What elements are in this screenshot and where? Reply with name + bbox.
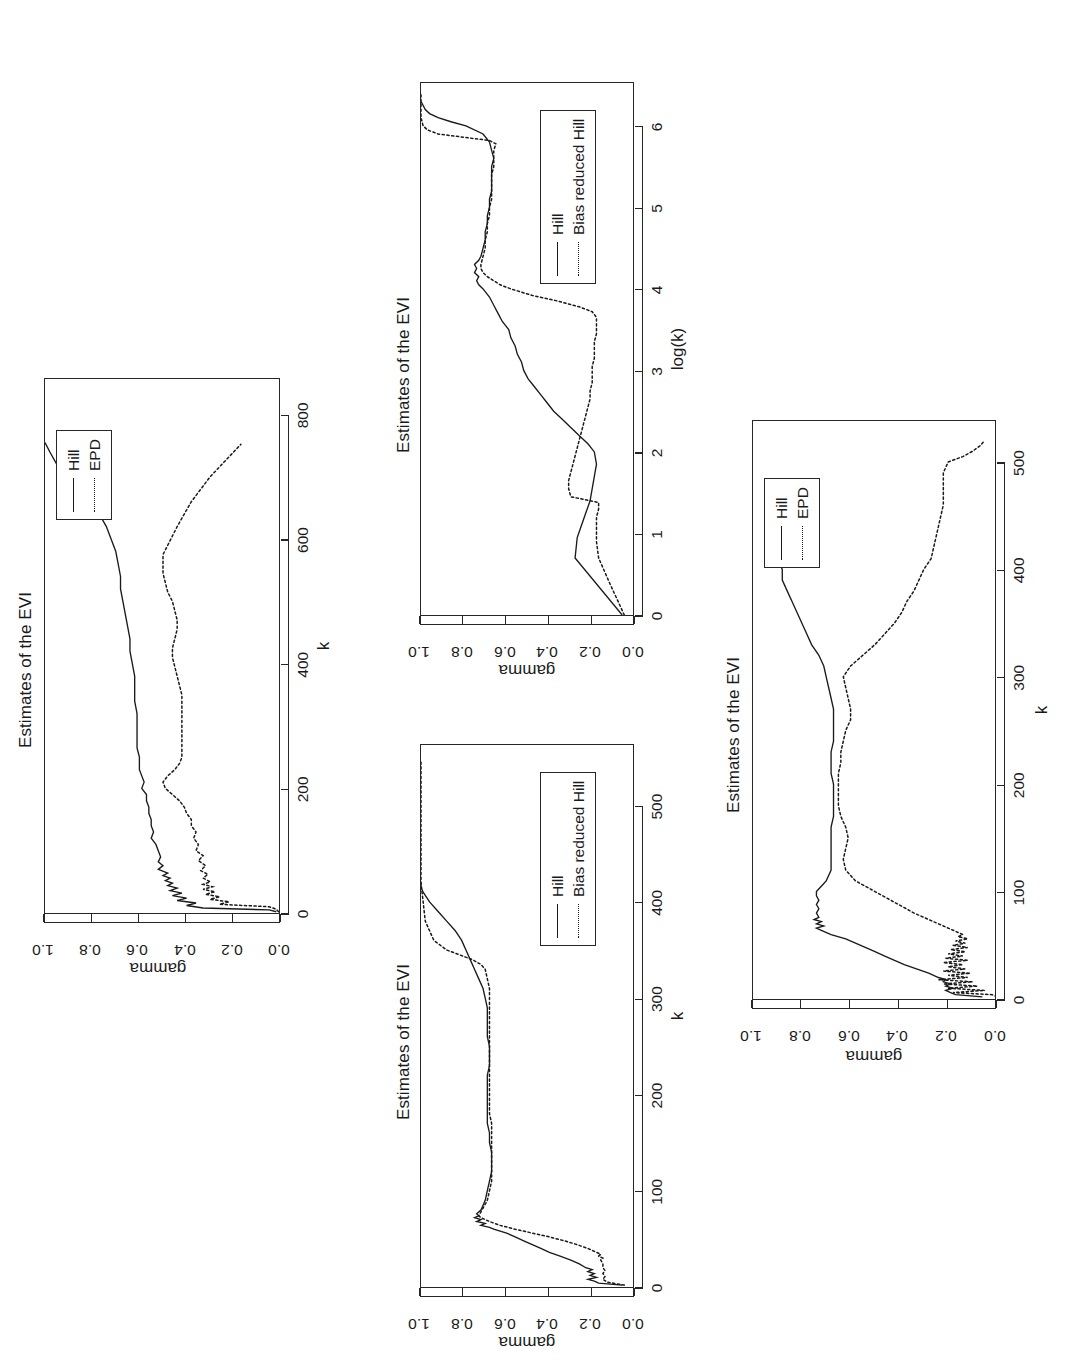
panel-2-legend-item-0: Hill xyxy=(547,119,568,276)
y-tick-mark xyxy=(591,616,592,624)
panel-1-legend-item-1: EPD xyxy=(84,439,105,512)
y-tick-mark xyxy=(462,616,463,624)
panel-4-legend: Hill EPD xyxy=(764,478,820,568)
x-tick-label: 300 xyxy=(1010,648,1028,708)
y-tick-label: 1.0 xyxy=(21,941,65,959)
x-tick-mark xyxy=(635,999,643,1000)
panel-3-legend-item-1: Bias reduced Hill xyxy=(568,781,589,938)
panel-3: Estimates of the EVI Hill Bias reduced H… xyxy=(388,722,718,1362)
panel-4-ylabel: gamma xyxy=(794,1046,954,1066)
x-tick-mark xyxy=(997,892,1005,893)
panel-1-legend-label-1: EPD xyxy=(84,439,105,471)
x-tick-mark xyxy=(281,664,289,665)
panel-1: Estimates of the EVI Hill EPD k gamma 02… xyxy=(8,350,368,990)
y-tick-label: 0.2 xyxy=(924,1027,968,1045)
x-tick-mark xyxy=(281,539,289,540)
y-tick-label: 0.6 xyxy=(483,1315,527,1333)
panel-4-legend-label-1: EPD xyxy=(792,487,813,519)
y-tick-mark xyxy=(505,1288,506,1296)
dotted-line-key-icon xyxy=(94,478,95,512)
solid-line-key-icon xyxy=(73,478,74,512)
panel-3-legend-label-1: Bias reduced Hill xyxy=(568,781,589,897)
panel-4-series-epd xyxy=(838,440,996,996)
y-tick-label: 0.6 xyxy=(115,941,159,959)
x-tick-label: 0 xyxy=(648,586,666,646)
panel-3-legend-label-0: Hill xyxy=(547,875,568,897)
panel-3-xlabel: k xyxy=(668,744,688,1288)
x-tick-label: 100 xyxy=(648,1162,666,1222)
x-tick-label: 6 xyxy=(648,97,666,157)
y-tick-label: 0.0 xyxy=(611,1315,655,1333)
x-tick-label: 200 xyxy=(294,759,312,819)
panel-4-xlabel: k xyxy=(1032,420,1052,1000)
y-tick-mark xyxy=(43,914,44,922)
x-tick-label: 3 xyxy=(648,341,666,401)
y-tick-label: 1.0 xyxy=(397,1315,441,1333)
y-axis-line xyxy=(420,624,634,625)
x-tick-label: 800 xyxy=(294,385,312,445)
dotted-line-key-icon xyxy=(802,526,803,560)
panel-2-legend-label-0: Hill xyxy=(547,213,568,235)
panel-3-plot-area xyxy=(420,744,634,1288)
solid-line-key-icon xyxy=(557,242,558,276)
y-tick-mark xyxy=(505,616,506,624)
x-tick-mark xyxy=(635,1287,643,1288)
y-tick-mark xyxy=(548,616,549,624)
panel-3-title: Estimates of the EVI xyxy=(394,722,414,1362)
x-tick-label: 2 xyxy=(648,423,666,483)
x-tick-mark xyxy=(281,789,289,790)
panel-1-ylabel: gamma xyxy=(78,958,238,978)
panel-1-legend-label-0: Hill xyxy=(63,449,84,471)
panel-2: Estimates of the EVI Hill Bias reduced H… xyxy=(388,60,718,690)
x-tick-label: 400 xyxy=(648,873,666,933)
x-tick-mark xyxy=(635,289,643,290)
y-tick-label: 0.4 xyxy=(525,643,569,661)
x-tick-mark xyxy=(635,806,643,807)
x-tick-mark xyxy=(997,570,1005,571)
panel-3-legend-item-0: Hill xyxy=(547,781,568,938)
x-tick-mark xyxy=(281,913,289,914)
y-tick-label: 0.0 xyxy=(257,941,301,959)
y-tick-label: 1.0 xyxy=(397,643,441,661)
x-tick-mark xyxy=(635,615,643,616)
y-tick-mark xyxy=(849,1000,850,1008)
x-tick-mark xyxy=(635,452,643,453)
x-tick-label: 0 xyxy=(294,884,312,944)
y-axis-line xyxy=(752,1008,996,1009)
x-tick-mark xyxy=(281,415,289,416)
panel-4-legend-item-0: Hill xyxy=(771,487,792,560)
x-tick-mark xyxy=(635,1095,643,1096)
x-tick-label: 500 xyxy=(648,777,666,837)
y-tick-mark xyxy=(995,1000,996,1008)
x-tick-mark xyxy=(635,1191,643,1192)
panel-3-legend: Hill Bias reduced Hill xyxy=(540,772,596,946)
panel-2-legend: Hill Bias reduced Hill xyxy=(540,110,596,284)
y-tick-label: 0.0 xyxy=(611,643,655,661)
x-tick-label: 400 xyxy=(294,635,312,695)
x-tick-label: 0 xyxy=(648,1258,666,1318)
y-tick-mark xyxy=(591,1288,592,1296)
panel-3-ylabel: gamma xyxy=(447,1332,607,1352)
y-tick-label: 0.2 xyxy=(568,1315,612,1333)
y-tick-label: 0.4 xyxy=(525,1315,569,1333)
solid-line-key-icon xyxy=(781,526,782,560)
x-tick-mark xyxy=(635,902,643,903)
panel-1-series-epd xyxy=(163,444,279,911)
y-tick-label: 0.0 xyxy=(973,1027,1017,1045)
y-tick-mark xyxy=(898,1000,899,1008)
x-tick-label: 4 xyxy=(648,260,666,320)
x-tick-label: 200 xyxy=(648,1065,666,1125)
x-tick-label: 1 xyxy=(648,504,666,564)
y-tick-label: 0.8 xyxy=(440,1315,484,1333)
panel-1-title: Estimates of the EVI xyxy=(16,350,36,990)
y-tick-mark xyxy=(947,1000,948,1008)
y-tick-mark xyxy=(548,1288,549,1296)
y-tick-label: 0.2 xyxy=(568,643,612,661)
panel-2-ylabel: gamma xyxy=(447,660,607,680)
x-tick-label: 5 xyxy=(648,178,666,238)
x-tick-label: 100 xyxy=(1010,863,1028,923)
panel-2-curves xyxy=(421,82,634,615)
panel-4: Estimates of the EVI Hill EPD k gamma 01… xyxy=(716,390,1086,1080)
panel-2-legend-label-1: Bias reduced Hill xyxy=(568,119,589,235)
panel-2-xlabel: log(k) xyxy=(668,82,688,616)
